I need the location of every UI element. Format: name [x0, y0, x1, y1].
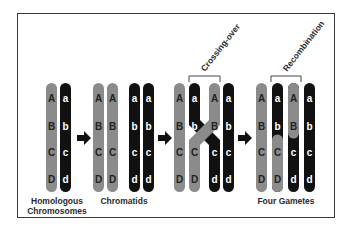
svg-text:C: C [109, 147, 116, 158]
svg-text:d: d [62, 174, 68, 185]
svg-text:C: C [258, 147, 265, 158]
svg-text:c: c [307, 147, 313, 158]
crossing-over-bracket [189, 76, 220, 82]
svg-text:a: a [275, 93, 281, 104]
svg-text:d: d [145, 174, 151, 185]
svg-text:B: B [95, 121, 102, 132]
svg-text:a: a [307, 93, 313, 104]
svg-text:C: C [176, 147, 183, 158]
svg-text:c: c [63, 147, 69, 158]
svg-text:b: b [62, 121, 68, 132]
svg-text:D: D [258, 174, 265, 185]
homologous-chromosomes: ABCD abcd [46, 83, 71, 192]
svg-text:A: A [211, 93, 218, 104]
svg-text:A: A [176, 93, 183, 104]
svg-text:b: b [225, 121, 231, 132]
recombination-bracket [271, 76, 301, 82]
svg-text:A: A [290, 93, 297, 104]
svg-text:b: b [131, 121, 137, 132]
chromatids: ABCD ABCD abcd abcd [93, 83, 154, 192]
svg-text:A: A [48, 93, 55, 104]
crossing-over-label: Crossing-over [199, 21, 243, 73]
svg-text:a: a [63, 93, 69, 104]
svg-text:b: b [274, 121, 280, 132]
svg-text:d: d [211, 174, 217, 185]
svg-text:b: b [145, 121, 151, 132]
svg-text:B: B [48, 121, 55, 132]
svg-text:a: a [132, 93, 138, 104]
svg-text:a: a [146, 93, 152, 104]
svg-text:D: D [176, 174, 183, 185]
svg-text:d: d [225, 174, 231, 185]
homologous-chromosomes-label: Homologous Chromosomes [22, 196, 92, 216]
four-gametes-label: Four Gametes [252, 196, 320, 206]
svg-text:B: B [258, 121, 265, 132]
svg-text:A: A [95, 93, 102, 104]
svg-text:c: c [226, 147, 232, 158]
svg-text:b: b [306, 121, 312, 132]
svg-text:B: B [109, 121, 116, 132]
svg-text:D: D [109, 174, 116, 185]
homologous-label-line1: Homologous [22, 196, 92, 206]
svg-text:C: C [48, 147, 55, 158]
four-gametes: ABCD CD AB ab cd abcd Recombination [256, 19, 326, 192]
svg-text:C: C [191, 147, 198, 158]
arrow-right-icon [158, 131, 172, 145]
svg-text:C: C [95, 147, 102, 158]
svg-text:B: B [290, 121, 297, 132]
svg-text:d: d [306, 174, 312, 185]
homologous-label-line2: Chromosomes [22, 206, 92, 216]
svg-text:c: c [146, 147, 152, 158]
crossing-over-stage: ABCD CD AB ab cd abcd Crossing-over [174, 21, 242, 192]
svg-text:d: d [131, 174, 137, 185]
svg-text:c: c [132, 147, 138, 158]
svg-text:A: A [258, 93, 265, 104]
svg-text:D: D [95, 174, 102, 185]
arrow-right-icon [238, 131, 252, 145]
svg-text:D: D [48, 174, 55, 185]
svg-text:B: B [211, 121, 218, 132]
svg-text:a: a [192, 93, 198, 104]
svg-text:D: D [191, 174, 198, 185]
svg-text:b: b [191, 121, 197, 132]
svg-text:C: C [274, 147, 281, 158]
arrow-right-icon [77, 131, 91, 145]
svg-text:D: D [274, 174, 281, 185]
svg-text:A: A [109, 93, 116, 104]
svg-text:a: a [226, 93, 232, 104]
svg-text:c: c [212, 147, 218, 158]
chromatids-label: Chromatids [92, 196, 156, 206]
svg-text:d: d [290, 174, 296, 185]
recombination-label: Recombination [281, 19, 327, 74]
svg-text:c: c [291, 147, 297, 158]
svg-text:B: B [176, 121, 183, 132]
